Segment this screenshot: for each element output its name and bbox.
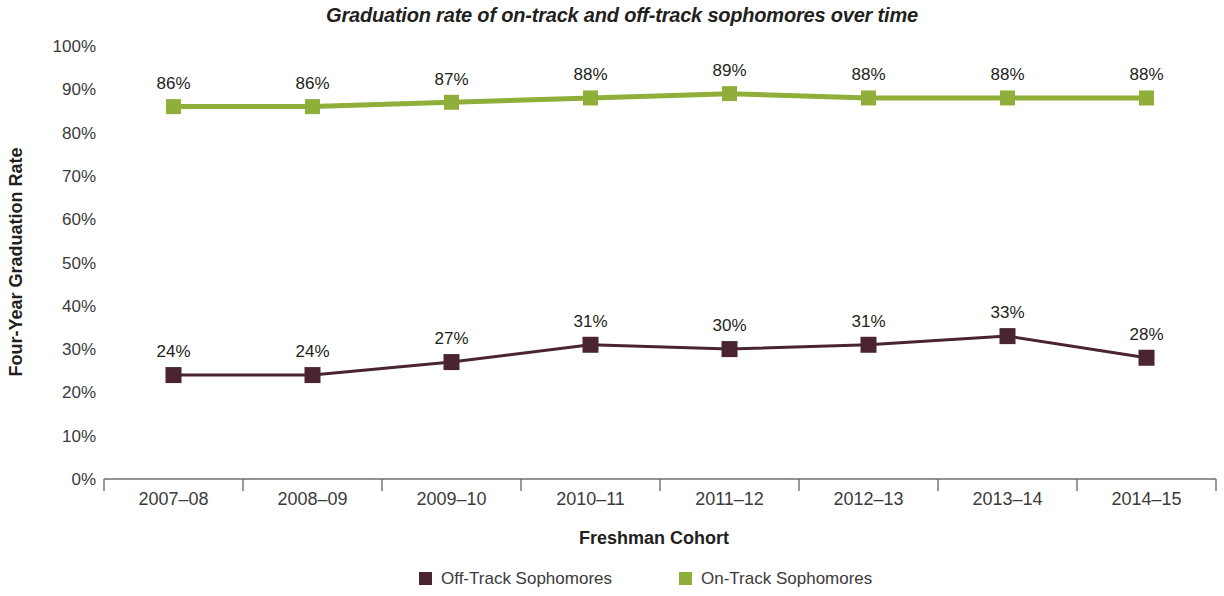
y-axis-tick-label: 10% xyxy=(62,427,96,446)
data-point-marker xyxy=(861,337,877,353)
x-axis-category-label: 2013–14 xyxy=(972,489,1042,509)
x-axis-category-label: 2011–12 xyxy=(695,489,764,509)
data-point-label: 24% xyxy=(156,342,190,361)
data-point-label: 88% xyxy=(990,65,1024,84)
data-point-marker xyxy=(305,99,320,114)
x-axis-category-label: 2010–11 xyxy=(556,489,625,509)
legend-item-off-track[interactable]: Off-Track Sophomores xyxy=(419,569,612,588)
x-axis-category-label: 2009–10 xyxy=(416,489,486,509)
chart-title: Graduation rate of on-track and off-trac… xyxy=(326,4,918,26)
data-point-label: 88% xyxy=(851,65,885,84)
line-chart: Graduation rate of on-track and off-trac… xyxy=(0,0,1224,596)
data-point-marker xyxy=(1000,90,1015,105)
data-point-marker xyxy=(722,86,737,101)
y-axis-tick-label: 100% xyxy=(53,37,96,56)
y-axis-tick-label: 60% xyxy=(62,210,96,229)
y-axis-tick-label: 50% xyxy=(62,254,96,273)
y-axis-ticks: 100%90%80%70%60%50%40%30%20%10%0% xyxy=(53,37,96,489)
data-point-marker xyxy=(166,99,181,114)
data-point-label: 28% xyxy=(1129,325,1163,344)
data-point-marker xyxy=(166,367,182,383)
legend-label: Off-Track Sophomores xyxy=(441,569,612,588)
x-axis-category-label: 2014–15 xyxy=(1111,489,1181,509)
data-point-label: 86% xyxy=(295,74,329,93)
chart-container: Graduation rate of on-track and off-trac… xyxy=(0,0,1224,596)
data-point-label: 89% xyxy=(712,61,746,80)
y-axis-tick-label: 90% xyxy=(62,80,96,99)
x-axis-title: Freshman Cohort xyxy=(579,528,729,548)
x-axis-category-label: 2012–13 xyxy=(833,489,903,509)
data-point-label: 30% xyxy=(712,316,746,335)
x-axis xyxy=(104,479,1216,491)
data-point-label: 31% xyxy=(851,312,885,331)
data-point-marker xyxy=(1000,328,1016,344)
data-point-marker xyxy=(1139,350,1155,366)
legend-item-on-track[interactable]: On-Track Sophomores xyxy=(679,569,872,588)
data-point-marker xyxy=(1139,90,1154,105)
data-point-marker xyxy=(583,337,599,353)
data-point-label: 24% xyxy=(295,342,329,361)
data-point-marker xyxy=(305,367,321,383)
data-point-marker xyxy=(444,354,460,370)
y-axis-title: Four-Year Graduation Rate xyxy=(6,147,26,376)
data-point-label: 87% xyxy=(434,70,468,89)
x-axis-category-label: 2007–08 xyxy=(138,489,208,509)
y-axis-tick-label: 0% xyxy=(71,470,96,489)
data-point-marker xyxy=(583,90,598,105)
legend-label: On-Track Sophomores xyxy=(701,569,872,588)
data-series-group xyxy=(166,86,1155,383)
y-axis-tick-label: 80% xyxy=(62,124,96,143)
chart-legend: Off-Track SophomoresOn-Track Sophomores xyxy=(419,569,872,588)
x-axis-category-label: 2008–09 xyxy=(277,489,347,509)
data-point-label: 86% xyxy=(156,74,190,93)
y-axis-tick-label: 30% xyxy=(62,340,96,359)
y-axis-tick-label: 20% xyxy=(62,383,96,402)
data-point-label: 27% xyxy=(434,329,468,348)
data-point-marker xyxy=(861,90,876,105)
y-axis-tick-label: 40% xyxy=(62,297,96,316)
data-point-marker xyxy=(722,341,738,357)
data-point-label: 33% xyxy=(990,303,1024,322)
y-axis-tick-label: 70% xyxy=(62,167,96,186)
data-point-label: 31% xyxy=(573,312,607,331)
legend-swatch xyxy=(679,572,692,585)
data-point-marker xyxy=(444,95,459,110)
legend-swatch xyxy=(419,572,432,585)
x-axis-category-labels: 2007–082008–092009–102010–112011–122012–… xyxy=(138,489,1181,509)
data-point-label: 88% xyxy=(1129,65,1163,84)
data-point-label: 88% xyxy=(573,65,607,84)
